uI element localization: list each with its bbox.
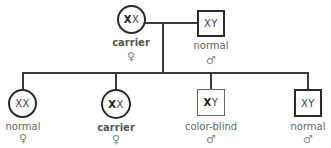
child-1-genotype-rest: XX [15,98,30,109]
female-symbol-icon: ♀ [101,134,131,146]
child-4-drop-line [307,73,309,90]
child-2-node: XX [101,89,131,119]
mother-genotype-rest: X [132,14,139,25]
child-2-drop-line [115,73,117,90]
child-2-genotype-bold: X [108,99,116,110]
child-1-drop-line [22,73,24,90]
child-1-status-label: normal [0,121,63,133]
child-3-node: XY [197,89,225,116]
father-node: XY [197,10,225,37]
male-symbol-icon: ♂ [196,134,226,146]
child-3-drop-line [210,73,212,89]
child-4-genotype-rest: XY [301,98,315,109]
male-symbol-icon: ♂ [293,134,323,146]
mother-status-label: carrier [91,37,171,49]
female-symbol-icon: ♀ [116,51,146,63]
child-3-status-label: color-blind [171,121,251,133]
father-status-label: normal [171,40,251,52]
child-3-genotype-bold: X [204,97,212,108]
child-3-genotype-rest: Y [212,97,219,108]
child-1-node: XX [8,89,37,118]
sibship-line [22,72,309,74]
marriage-line [145,22,197,24]
child-4-status-label: normal [268,121,331,133]
father-genotype-rest: XY [204,18,218,29]
mother-node: XX [117,5,146,34]
child-2-genotype-rest: X [116,99,123,110]
male-symbol-icon: ♂ [196,55,226,67]
female-symbol-icon: ♀ [8,133,38,145]
mother-genotype-bold: X [124,14,132,25]
child-4-node: XY [294,89,322,117]
